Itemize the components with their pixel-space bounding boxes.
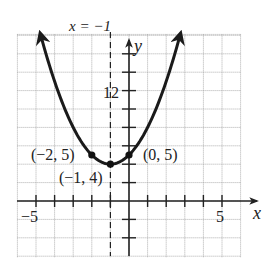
parabola-graph: x y x = −1 −5 5 12 (−2, 5) (−1, 4) (0, 5… — [0, 0, 275, 268]
point-label-neg2-5: (−2, 5) — [31, 146, 75, 164]
point-label-vertex: (−1, 4) — [59, 169, 103, 187]
data-point — [125, 151, 132, 158]
x-axis-label: x — [252, 203, 261, 223]
y-axis-label: y — [132, 36, 142, 56]
axis-of-symmetry-label: x = −1 — [68, 18, 111, 34]
data-point — [88, 151, 95, 158]
point-label-0-5: (0, 5) — [143, 146, 178, 164]
data-point — [107, 161, 114, 168]
y-tick-label-12: 12 — [103, 84, 119, 101]
x-tick-label-5: 5 — [216, 208, 224, 225]
x-tick-label-neg5: −5 — [21, 208, 38, 225]
